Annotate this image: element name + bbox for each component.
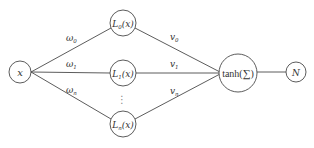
weight-omega-n: ωn — [66, 85, 77, 96]
output-node-label: N — [291, 68, 301, 78]
weight-v-1: v1 — [170, 59, 179, 70]
weight-omega-1: ω1 — [66, 59, 77, 70]
hidden-node-label: L0(x) — [111, 19, 134, 30]
edge-x-to-ln — [31, 72, 111, 119]
output-node: N — [286, 62, 306, 82]
activation-node-label: tanh(∑) — [222, 67, 254, 80]
hidden-node-0: L0(x) — [110, 10, 136, 36]
input-node-label: x — [17, 67, 23, 78]
input-weight-labels: ω0 ω1 ωn — [66, 33, 77, 96]
weight-v-0: v0 — [170, 32, 179, 43]
hidden-node-n: Ln(x) — [110, 111, 136, 137]
vertical-ellipsis: ⋮ — [117, 94, 127, 105]
hidden-node-label: Ln(x) — [111, 120, 134, 131]
hidden-node-label: L1(x) — [111, 69, 134, 80]
input-node: x — [9, 61, 31, 83]
neural-network-diagram: x L0(x) L1(x) Ln(x) ⋮ tanh(∑) N ω0 ω1 ωn… — [0, 0, 314, 148]
activation-node: tanh(∑) — [219, 54, 257, 92]
edge-x-to-l1 — [31, 72, 110, 73]
output-weight-labels: v0 v1 vn — [170, 32, 179, 97]
weight-v-n: vn — [170, 86, 179, 97]
hidden-node-1: L1(x) — [110, 60, 136, 86]
weight-omega-0: ω0 — [66, 33, 77, 44]
